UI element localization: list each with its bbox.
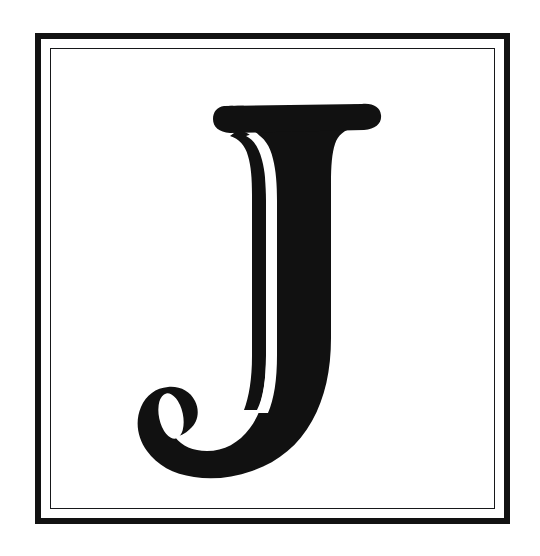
initial-letter-j-icon: J [52, 50, 493, 507]
glyph-inline-stroke-path [230, 130, 266, 410]
letter-field: J [52, 50, 493, 507]
glyph-serif-bar-path [213, 104, 381, 133]
decorative-initial-plate: J [35, 33, 510, 524]
page-root: J [0, 0, 540, 556]
